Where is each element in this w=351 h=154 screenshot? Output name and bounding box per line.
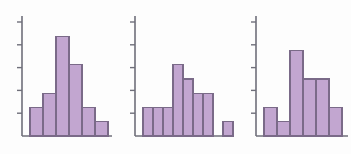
histogram-bar (277, 122, 290, 136)
histogram-panel-group (0, 0, 351, 154)
histogram-bar (82, 108, 95, 137)
histogram-bar (163, 108, 173, 137)
histogram-chart-1 (0, 0, 117, 154)
histogram-bar (264, 108, 277, 137)
histogram-bar (203, 93, 213, 136)
histogram-bar (56, 36, 69, 136)
figure-root (0, 0, 351, 154)
histogram-bar (95, 122, 108, 136)
histogram-bar (303, 79, 316, 136)
histogram-bar (153, 108, 163, 137)
histogram-chart-2 (117, 0, 234, 154)
histogram-bar (193, 93, 203, 136)
histogram-panel-1 (0, 0, 117, 154)
histogram-panel-2 (117, 0, 234, 154)
histogram-bar (173, 65, 183, 136)
histogram-panel-3 (234, 0, 351, 154)
histogram-bar (69, 65, 82, 136)
histogram-bar (30, 108, 43, 137)
histogram-bar (329, 108, 342, 137)
histogram-bar (43, 93, 56, 136)
histogram-bar (316, 79, 329, 136)
histogram-bar (183, 79, 193, 136)
histogram-bar (223, 122, 233, 136)
histogram-chart-3 (234, 0, 351, 154)
histogram-bar (143, 108, 153, 137)
histogram-bar (290, 51, 303, 137)
